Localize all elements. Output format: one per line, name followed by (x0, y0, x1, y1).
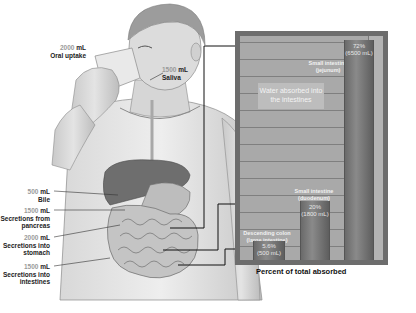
bar-caption-duodenum: Small intestine (duodenum) (294, 188, 334, 201)
bar-jejunum: 72% (6500 mL) (344, 40, 374, 260)
label-oral-uptake: 2000 mL Oral uptake (20, 44, 86, 59)
bar-duodenum: 20% (1800 mL) (300, 201, 330, 260)
bar-value-ml: (500 mL) (254, 250, 284, 257)
label-stomach-secretions: 2000 mL Secretions into stomach (0, 234, 50, 257)
label-intestine-secretions: 1500 mL Secretions into intestines (0, 263, 50, 286)
label-pancreas: 1500 mL Secretions from pancreas (0, 207, 50, 230)
label-saliva: 1500 mL Saliva (162, 66, 198, 81)
bar-value-ml: (1800 mL) (301, 211, 329, 218)
water-balance-figure: 2000 mL Oral uptake 1500 mL Saliva 500 m… (0, 0, 416, 313)
chart-x-axis-label: Percent of total absorbed (256, 267, 346, 276)
bar-colon: 5.6% (500 mL) (253, 241, 285, 260)
bar-value-pct: 72% (345, 43, 373, 50)
bar-value-ml: (6500 mL) (345, 50, 373, 57)
chart-plot-area: Water absorbed into the intestines Small… (240, 36, 383, 260)
bar-value-pct: 20% (301, 204, 329, 211)
absorption-bar-chart: Water absorbed into the intestines Small… (235, 31, 388, 265)
bar-value-pct: 5.6% (254, 243, 284, 250)
chart-title-box: Water absorbed into the intestines (258, 83, 324, 109)
label-bile: 500 mL Bile (0, 188, 50, 203)
